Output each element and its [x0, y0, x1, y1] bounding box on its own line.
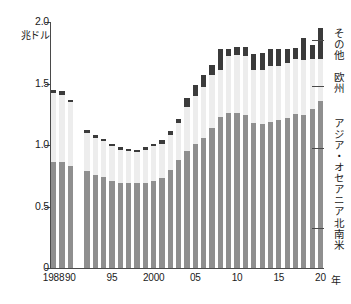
x-axis-unit-label: 年	[331, 272, 341, 287]
bar-segment	[310, 59, 315, 109]
bar-segment	[168, 170, 173, 268]
bar-segment	[51, 90, 56, 94]
legend-leader-line	[312, 40, 324, 41]
y-tick-label: 1.5	[35, 77, 49, 89]
bar-segment	[226, 49, 231, 56]
bar-segment	[234, 47, 239, 56]
bar	[134, 150, 139, 268]
bar-segment	[268, 49, 273, 66]
bar	[193, 85, 198, 268]
bar-segment	[59, 91, 64, 95]
bar-segment	[134, 183, 139, 268]
legend-leader-line	[312, 148, 324, 149]
x-tick-label: 2000	[138, 272, 170, 283]
bar	[260, 53, 265, 268]
bar-segment	[243, 115, 248, 268]
legend-leader-line	[312, 86, 324, 87]
bar	[151, 144, 156, 268]
bar-segment	[134, 152, 139, 183]
bar-segment	[51, 93, 56, 162]
bar-segment	[193, 85, 198, 96]
bar-segment	[93, 138, 98, 175]
bar-segment	[310, 45, 315, 59]
legend-leader-line	[312, 228, 324, 229]
bar-segment	[285, 49, 290, 63]
bar-segment	[268, 122, 273, 268]
bar	[209, 65, 214, 268]
legend-label: 欧州	[327, 72, 343, 94]
y-tick-label: 0.5	[35, 200, 49, 212]
bar-segment	[168, 135, 173, 169]
bar-segment	[184, 151, 189, 268]
bar	[276, 49, 281, 268]
bar-segment	[143, 147, 148, 149]
bar-segment	[234, 113, 239, 268]
bar-segment	[126, 149, 131, 151]
bar-segment	[84, 130, 89, 132]
bar-segment	[126, 151, 131, 183]
bar-segment	[293, 48, 298, 59]
bar-segment	[143, 150, 148, 183]
y-axis-unit-label: 兆ドル	[21, 27, 50, 42]
bar-segment	[134, 150, 139, 152]
bar	[59, 91, 64, 268]
bar	[234, 47, 239, 268]
bar	[184, 98, 189, 268]
bar-segment	[293, 114, 298, 268]
bar	[118, 147, 123, 268]
bar-segment	[318, 59, 323, 101]
bar	[84, 130, 89, 268]
bar	[93, 135, 98, 268]
bar-segment	[301, 38, 306, 60]
x-axis-line	[50, 268, 324, 269]
y-tick-label: 2.0	[35, 15, 49, 27]
bar	[243, 47, 248, 268]
bar-segment	[159, 178, 164, 268]
bar-segment	[293, 59, 298, 114]
bar-segment	[193, 96, 198, 144]
bar-segment	[101, 139, 106, 141]
legend-label: その他	[327, 28, 343, 61]
legend-label: 北南米	[327, 218, 343, 251]
bar-segment	[285, 63, 290, 118]
bar-segment	[51, 162, 56, 268]
bar-segment	[218, 70, 223, 117]
bar-segment	[168, 131, 173, 135]
bar-segment	[176, 119, 181, 123]
bar-segment	[184, 98, 189, 107]
bar	[268, 49, 273, 268]
bar-segment	[118, 147, 123, 149]
bar-segment	[276, 120, 281, 268]
bar-segment	[276, 49, 281, 66]
bar-segment	[268, 66, 273, 121]
bar-segment	[318, 28, 323, 59]
bar-segment	[93, 135, 98, 137]
bar-segment	[59, 162, 64, 268]
bar	[101, 139, 106, 268]
bar-segment	[209, 75, 214, 128]
bar-segment	[118, 150, 123, 183]
bar-segment	[201, 75, 206, 87]
bar-segment	[285, 118, 290, 268]
bar-segment	[243, 47, 248, 57]
y-tick-label: 1.0	[35, 138, 49, 150]
bar-segment	[318, 101, 323, 268]
bar	[168, 131, 173, 268]
bar	[251, 54, 256, 268]
bar-segment	[251, 54, 256, 70]
bar	[126, 149, 131, 268]
bar	[285, 49, 290, 268]
bar-segment	[201, 87, 206, 137]
bar-segment	[84, 171, 89, 268]
bar-segment	[260, 53, 265, 70]
bar	[201, 75, 206, 268]
bar-segment	[126, 183, 131, 268]
bar-segment	[151, 146, 156, 180]
bar-segment	[184, 107, 189, 151]
bar-segment	[310, 109, 315, 268]
bar-segment	[176, 160, 181, 268]
bar-segment	[260, 70, 265, 124]
bar-segment	[193, 144, 198, 268]
bar-segment	[109, 181, 114, 268]
bar-segment	[218, 117, 223, 268]
